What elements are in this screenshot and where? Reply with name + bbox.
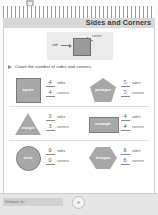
corners-value: 6 [121, 156, 129, 164]
triangle-right-icon [8, 65, 12, 69]
answer-rule [46, 120, 55, 121]
answer-rule [121, 154, 130, 155]
sides-answer-line[interactable]: 3 sides [46, 112, 79, 122]
example-diagram: side corner [47, 32, 113, 60]
shape-row: circle 0 sides 0 corners [4, 141, 154, 175]
corners-answer-line[interactable]: 0 corners [46, 156, 79, 166]
corners-label: corners [132, 159, 144, 163]
corner-annotation-label: corner [92, 34, 102, 38]
corners-label: corners [57, 159, 69, 163]
sides-answer-line[interactable]: 6 sides [121, 146, 154, 156]
answer-block: 5 sides 5 corners [121, 78, 154, 98]
sides-answer-line[interactable]: 0 sides [46, 146, 79, 156]
worksheet-body: side corner Count the number of sides an… [3, 28, 155, 194]
shape-label: circle [14, 156, 42, 160]
corners-value: 5 [121, 88, 129, 96]
answer-block: 0 sides 0 corners [46, 146, 79, 166]
sides-value: 3 [46, 112, 54, 120]
instruction-row: Count the number of sides and corners. [8, 64, 150, 72]
side-annotation-label: side [52, 43, 58, 47]
corners-label: corners [132, 125, 144, 129]
corners-answer-line[interactable]: 4 corners [121, 122, 154, 132]
corners-answer-line[interactable]: 5 corners [121, 88, 154, 98]
corners-value: 0 [46, 156, 54, 164]
answer-rule [46, 86, 55, 87]
circle-shape-icon: circle [14, 144, 42, 171]
sides-answer-line[interactable]: 4 sides [121, 112, 154, 122]
shape-label: triangle [14, 126, 42, 130]
answer-rule [121, 120, 130, 121]
sides-answer-line[interactable]: 4 sides [46, 78, 79, 88]
footer-credit-text: Scholastic Inc. [5, 198, 26, 206]
sides-value: 6 [121, 146, 129, 154]
corners-value: 4 [46, 88, 54, 96]
instruction-text: Count the number of sides and corners. [15, 64, 92, 70]
answer-block: 6 sides 6 corners [121, 146, 154, 166]
answer-block: 4 sides 4 corners [121, 112, 154, 132]
shape-row: square 4 sides 4 corners [4, 73, 154, 107]
corners-value: 4 [121, 122, 129, 130]
corners-answer-line[interactable]: 3 corners [46, 122, 79, 132]
shape-grid: square 4 sides 4 corners [4, 73, 154, 191]
answer-rule [121, 164, 130, 165]
sides-label: sides [132, 149, 140, 153]
shape-row: triangle 3 sides 3 corners [4, 107, 154, 141]
shape-label: pentagon [89, 88, 117, 92]
sides-value: 5 [121, 78, 129, 86]
shape-label: rectangle [89, 122, 117, 126]
shape-cell-pentagon[interactable]: pentagon 5 sides 5 corners [79, 73, 154, 107]
corners-answer-line[interactable]: 4 corners [46, 88, 79, 98]
shape-cell-circle[interactable]: circle 0 sides 0 corners [4, 141, 79, 175]
answer-rule [46, 154, 55, 155]
triangle-shape-icon: triangle [14, 110, 42, 137]
answer-rule [46, 164, 55, 165]
example-square-shape [73, 38, 91, 56]
answer-rule [46, 96, 55, 97]
footer-credit-strip: Scholastic Inc. [3, 198, 63, 206]
corners-answer-line[interactable]: 6 corners [121, 156, 154, 166]
corners-label: corners [57, 125, 69, 129]
sides-value: 0 [46, 146, 54, 154]
sides-value: 4 [121, 112, 129, 120]
page-title: Sides and Corners [86, 18, 151, 28]
shape-cell-hexagon[interactable]: hexagon 6 sides 6 corners [79, 141, 154, 175]
shape-label: square [14, 88, 42, 92]
shape-cell-triangle[interactable]: triangle 3 sides 3 corners [4, 107, 79, 141]
side-arrow-icon [61, 45, 71, 46]
hexagon-shape-icon: hexagon [89, 144, 117, 171]
sides-answer-line[interactable]: 5 sides [121, 78, 154, 88]
answer-rule [121, 86, 130, 87]
corners-value: 3 [46, 122, 54, 130]
rectangle-shape-icon: rectangle [89, 110, 117, 137]
worksheet-page: Sides and Corners side corner Count the … [0, 0, 158, 215]
answer-rule [121, 96, 130, 97]
sides-label: sides [132, 115, 140, 119]
pentagon-shape-icon: pentagon [89, 76, 117, 103]
shape-cell-rectangle[interactable]: rectangle 4 sides 4 corners [79, 107, 154, 141]
answer-block: 4 sides 4 corners [46, 78, 79, 98]
answer-rule [46, 130, 55, 131]
sides-value: 4 [46, 78, 54, 86]
page-number-badge: 8 [72, 196, 85, 209]
sides-label: sides [57, 149, 65, 153]
sides-label: sides [132, 81, 140, 85]
square-shape-icon: square [14, 76, 42, 103]
answer-block: 3 sides 3 corners [46, 112, 79, 132]
footer-bar: Scholastic Inc. 8 [0, 193, 158, 215]
sides-label: sides [57, 81, 65, 85]
corners-label: corners [132, 91, 144, 95]
shape-cell-square[interactable]: square 4 sides 4 corners [4, 73, 79, 107]
answer-rule [121, 130, 130, 131]
corners-label: corners [57, 91, 69, 95]
sides-label: sides [57, 115, 65, 119]
shape-label: hexagon [89, 156, 117, 160]
